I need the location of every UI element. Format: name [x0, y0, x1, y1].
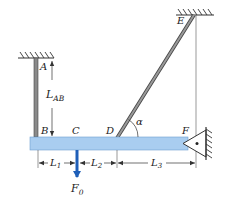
beam-rod-diagram: LAB α F0 L1 L2 L3 A B C D E F: [0, 0, 229, 197]
label-point-e: E: [176, 15, 185, 26]
label-alpha: α: [136, 116, 143, 127]
label-lab: LAB: [45, 88, 65, 103]
label-point-b: B: [40, 125, 48, 136]
label-point-c: C: [72, 125, 80, 136]
label-point-a: A: [39, 61, 47, 72]
rigid-beam: [30, 137, 188, 150]
ceiling-support-a: [18, 52, 54, 58]
rod-ab: [34, 58, 38, 137]
label-point-f: F: [181, 125, 190, 136]
label-l1: L1: [49, 157, 61, 170]
load-force-f0: F0: [70, 150, 84, 197]
dimension-horizontal: L1 L2 L3: [38, 150, 195, 170]
label-l2: L2: [90, 157, 103, 170]
label-point-d: D: [105, 125, 114, 136]
label-l3: L3: [150, 157, 163, 170]
label-f0: F0: [70, 182, 84, 197]
rod-de: [117, 15, 194, 138]
